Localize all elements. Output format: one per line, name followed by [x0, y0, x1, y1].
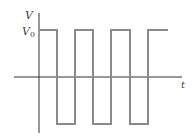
x-axis-label: t: [181, 79, 186, 90]
square-wave-figure: V V0 t: [0, 0, 195, 138]
y-axis-label: V: [25, 9, 34, 22]
v0-level-label: V0: [22, 25, 35, 39]
